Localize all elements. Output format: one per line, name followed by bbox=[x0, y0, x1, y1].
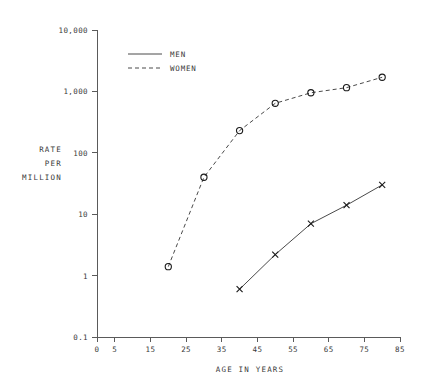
x-tick-label: 45 bbox=[252, 345, 262, 354]
x-axis: 051525354555657585 bbox=[95, 337, 405, 354]
x-tick-label: 65 bbox=[324, 345, 334, 354]
legend-label-men: MEN bbox=[170, 50, 186, 59]
data-point-marker bbox=[237, 286, 243, 292]
y-axis: 0.11101001,00010,000 bbox=[59, 26, 98, 342]
data-point-marker bbox=[201, 174, 207, 180]
data-point-marker bbox=[308, 221, 314, 227]
y-tick-label: 10,000 bbox=[59, 26, 89, 35]
x-tick-label: 25 bbox=[181, 345, 191, 354]
x-tick-label: 75 bbox=[359, 345, 369, 354]
y-tick-label: 1,000 bbox=[63, 87, 88, 96]
x-tick-label: 5 bbox=[112, 345, 117, 354]
series-group bbox=[165, 74, 385, 292]
series-women bbox=[165, 74, 385, 270]
y-tick-label: 0.1 bbox=[73, 333, 88, 342]
y-tick-label: 1 bbox=[83, 272, 88, 281]
y-tick-label: 100 bbox=[73, 149, 88, 158]
y-axis-title: RATE PER MILLION bbox=[22, 145, 62, 182]
y-tick-label: 10 bbox=[78, 210, 88, 219]
data-point-marker bbox=[379, 182, 385, 188]
y-axis-title-line-3: MILLION bbox=[22, 173, 62, 182]
series-men bbox=[237, 182, 386, 292]
y-tick-group: 0.11101001,00010,000 bbox=[59, 26, 98, 342]
x-tick-label: 0 bbox=[95, 345, 100, 354]
data-point-marker bbox=[272, 252, 278, 258]
x-tick-label: 55 bbox=[288, 345, 298, 354]
y-axis-title-line-1: RATE bbox=[39, 145, 62, 154]
rate-per-million-by-age-chart: 0.11101001,00010,000 051525354555657585 … bbox=[0, 0, 440, 391]
chart-page: 0.11101001,00010,000 051525354555657585 … bbox=[0, 0, 440, 391]
x-tick-label: 15 bbox=[146, 345, 156, 354]
x-tick-group: 051525354555657585 bbox=[95, 337, 405, 354]
data-point-marker bbox=[344, 202, 350, 208]
x-tick-label: 85 bbox=[395, 345, 405, 354]
x-tick-label: 35 bbox=[217, 345, 227, 354]
chart-legend: MENWOMEN bbox=[128, 50, 197, 73]
x-axis-title: AGE IN YEARS bbox=[216, 365, 285, 374]
legend-label-women: WOMEN bbox=[170, 64, 197, 73]
y-axis-title-line-2: PER bbox=[45, 159, 62, 168]
series-line bbox=[240, 185, 383, 289]
series-line bbox=[168, 77, 382, 266]
